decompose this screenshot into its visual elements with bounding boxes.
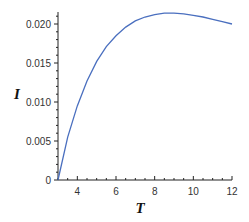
x-tick-label: 6 xyxy=(113,186,119,197)
x-tick-label: 10 xyxy=(188,186,200,197)
x-axis-label: T xyxy=(135,200,145,216)
x-tick-label: 8 xyxy=(152,186,158,197)
line-chart: 00.0050.0100.0150.0204681012 I T xyxy=(0,0,249,222)
axes: 00.0050.0100.0150.0204681012 xyxy=(26,12,238,197)
x-tick-label: 4 xyxy=(75,186,81,197)
y-tick-label: 0.015 xyxy=(26,58,51,69)
data-line xyxy=(58,13,232,180)
y-tick-label: 0.020 xyxy=(26,19,51,30)
y-tick-label: 0.010 xyxy=(26,97,51,108)
y-tick-label: 0.005 xyxy=(26,136,51,147)
x-tick-label: 12 xyxy=(226,186,238,197)
y-axis-label: I xyxy=(13,86,21,102)
y-tick-label: 0 xyxy=(45,175,51,186)
